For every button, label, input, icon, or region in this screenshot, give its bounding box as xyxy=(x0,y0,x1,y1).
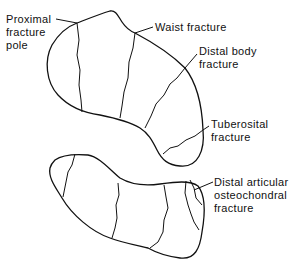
label-distal-body: Distal body fracture xyxy=(199,45,257,71)
label-tuberosital: Tuberosital fracture xyxy=(211,118,268,144)
waist-leader xyxy=(135,27,153,33)
distal-articular-leader xyxy=(194,182,213,190)
proximal-leader xyxy=(56,19,77,23)
label-line: fracture xyxy=(211,131,268,144)
lower-fracture-line-3 xyxy=(150,185,168,248)
lower-fracture-line-1 xyxy=(63,154,75,197)
label-line: pole xyxy=(6,39,51,52)
proximal-fracture-line xyxy=(77,23,82,112)
lower-bone-outline xyxy=(50,155,205,259)
label-distal-articular: Distal articular osteochondral fracture xyxy=(214,176,288,215)
label-line: Distal articular xyxy=(214,176,288,189)
distal-body-leader xyxy=(185,54,197,68)
tuberosital-leader xyxy=(203,126,209,130)
label-line: Tuberosital xyxy=(211,118,268,131)
label-line: Proximal xyxy=(6,13,51,26)
label-line: fracture xyxy=(214,202,288,215)
label-line: fracture xyxy=(199,58,257,71)
distal-articular-fracture-line-b xyxy=(190,180,202,205)
label-line: fracture xyxy=(6,26,51,39)
label-line: osteochondral xyxy=(214,189,288,202)
label-proximal-pole: Proximal fracture pole xyxy=(6,13,51,52)
label-waist: Waist fracture xyxy=(155,21,227,34)
waist-fracture-line xyxy=(120,33,135,118)
tuberosital-fracture-line xyxy=(163,130,203,154)
label-line: Distal body xyxy=(199,45,257,58)
lower-fracture-line-2 xyxy=(112,183,119,238)
distal-body-fracture-line xyxy=(145,68,185,128)
label-line: Waist fracture xyxy=(155,21,227,34)
